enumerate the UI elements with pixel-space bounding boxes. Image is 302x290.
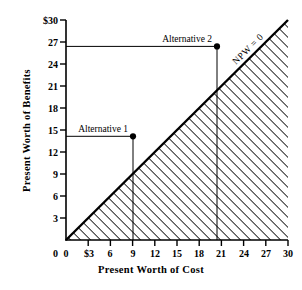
x-tick-label-24: 24 <box>239 248 249 259</box>
x-tick-label-9: 9 <box>131 248 136 259</box>
x-tick-label-12: 12 <box>150 248 160 259</box>
y-tick-label-0: 0 <box>22 248 58 259</box>
x-tick-label-3: $3 <box>84 248 94 259</box>
alternative-2-label: Alternative 2 <box>162 34 212 44</box>
x-tick-label-18: 18 <box>194 248 204 259</box>
x-tick-label-15: 15 <box>172 248 182 259</box>
x-axis-ticks <box>88 240 288 246</box>
data-point-alternative-1 <box>130 133 136 139</box>
data-point-alternative-2 <box>214 43 220 49</box>
alternative-1-label: Alternative 1 <box>78 124 128 134</box>
y-axis-ticks <box>60 20 66 218</box>
npw-breakeven-chart: $30 27 24 21 18 15 12 9 6 3 0 0 $3 6 9 1… <box>0 0 302 290</box>
x-tick-label-30: 30 <box>283 248 293 259</box>
y-axis-title: Present Worth of Benefits <box>21 21 32 241</box>
x-axis-title: Present Worth of Cost <box>0 264 302 275</box>
x-tick-label-6: 6 <box>108 248 113 259</box>
x-tick-label-0: 0 <box>64 248 69 259</box>
x-tick-label-21: 21 <box>216 248 226 259</box>
x-tick-label-27: 27 <box>261 248 271 259</box>
